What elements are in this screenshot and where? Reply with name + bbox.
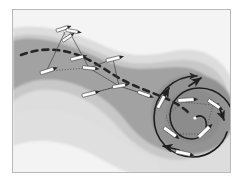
schematic-scene: [13, 10, 230, 172]
figure-container: [0, 0, 245, 183]
flow-schematic-svg: [13, 10, 231, 173]
figure-frame: [12, 9, 231, 173]
scan-veil: [13, 10, 231, 173]
